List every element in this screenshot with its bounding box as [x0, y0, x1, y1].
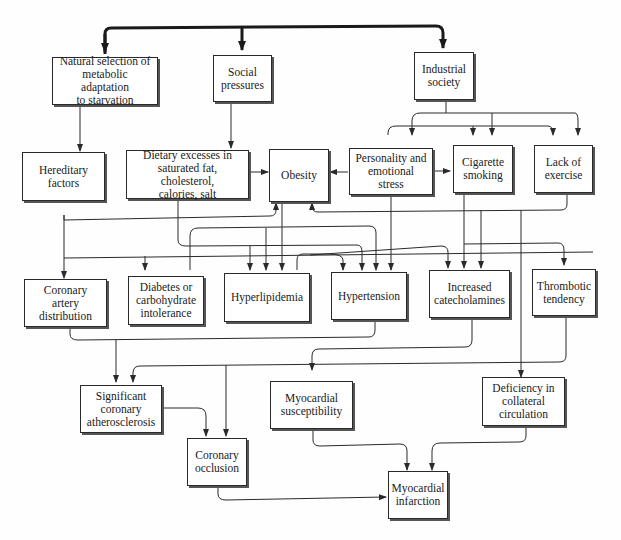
- node-significant-atherosclerosis: Significant coronary atherosclerosis: [80, 385, 162, 433]
- node-label: Myocardial infarction: [392, 482, 445, 508]
- node-thrombotic-tendency: Thrombotic tendency: [532, 269, 596, 316]
- node-label: Hypertension: [338, 290, 400, 303]
- node-diabetes: Diabetes or carbohydrate intolerance: [128, 276, 204, 325]
- node-label: Industrial society: [422, 63, 466, 89]
- node-label: Thrombotic tendency: [537, 280, 591, 306]
- flowchart-canvas: Natural selection of metabolic adaptatio…: [0, 0, 621, 540]
- node-hereditary-factors: Hereditary factors: [22, 152, 105, 201]
- node-cigarette-smoking: Cigarette smoking: [453, 145, 513, 193]
- node-label: Myocardial susceptibility: [281, 392, 342, 418]
- node-natural-selection: Natural selection of metabolic adaptatio…: [52, 57, 158, 105]
- node-obesity: Obesity: [269, 149, 329, 202]
- node-label: Hereditary factors: [39, 164, 88, 190]
- node-dietary-excesses: Dietary excesses in saturated fat, chole…: [126, 150, 249, 199]
- node-increased-catecholamines: Increased catecholamines: [429, 270, 510, 318]
- node-label: Dietary excesses in saturated fat, chole…: [131, 149, 244, 201]
- node-label: Cigarette smoking: [462, 156, 504, 182]
- node-label: Diabetes or carbohydrate intolerance: [136, 281, 196, 320]
- node-label: Coronary occlusion: [195, 449, 239, 475]
- node-hyperlipidemia: Hyperlipidemia: [224, 273, 310, 322]
- node-label: Lack of exercise: [545, 156, 583, 182]
- node-label: Obesity: [281, 169, 317, 182]
- node-industrial-society: Industrial society: [414, 52, 474, 100]
- node-label: Deficiency in collateral circulation: [492, 382, 554, 421]
- node-label: Hyperlipidemia: [231, 291, 303, 304]
- node-label: Personality and emotional stress: [354, 152, 428, 191]
- node-personality-stress: Personality and emotional stress: [349, 148, 433, 195]
- node-social-pressures: Social pressures: [213, 55, 272, 102]
- node-coronary-occlusion: Coronary occlusion: [187, 438, 247, 486]
- node-label: Significant coronary atherosclerosis: [87, 390, 155, 429]
- node-coronary-artery-distribution: Coronary artery distribution: [24, 279, 107, 327]
- node-lack-of-exercise: Lack of exercise: [534, 145, 593, 193]
- node-label: Increased catecholamines: [434, 281, 505, 307]
- node-myocardial-susceptibility: Myocardial susceptibility: [270, 381, 353, 429]
- node-hypertension: Hypertension: [331, 272, 407, 320]
- node-label: Coronary artery distribution: [29, 284, 102, 323]
- node-deficiency-collateral: Deficiency in collateral circulation: [482, 377, 565, 426]
- node-label: Natural selection of metabolic adaptatio…: [57, 55, 153, 107]
- node-myocardial-infarction: Myocardial infarction: [388, 471, 448, 519]
- node-label: Social pressures: [221, 66, 264, 92]
